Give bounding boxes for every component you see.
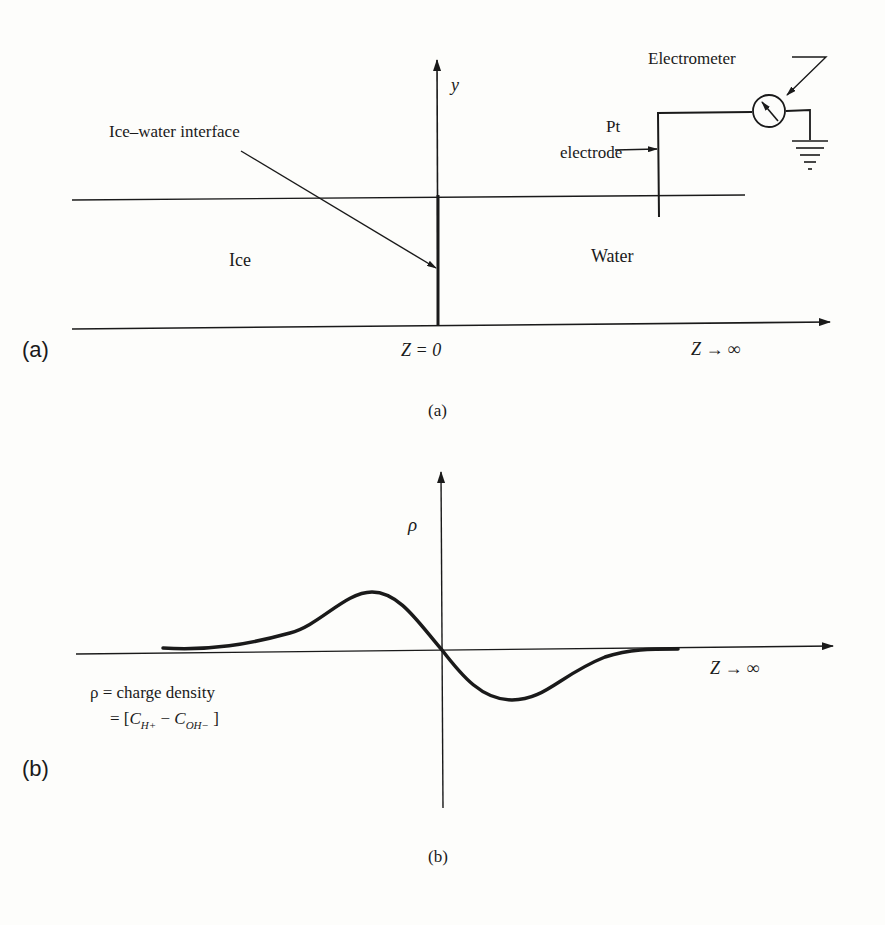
z-infinity-label-a: Z → ∞ — [691, 339, 741, 359]
origin-label: Z = 0 — [401, 340, 441, 360]
charge-density-curve — [163, 592, 678, 700]
water-label: Water — [591, 246, 634, 266]
charge-density-definition-line2: = [CH+ − COH− ] — [110, 709, 219, 731]
y-axis-label: y — [449, 75, 459, 95]
z-infinity-label-b: Z → ∞ — [710, 658, 760, 678]
rho-axis-label: ρ — [407, 514, 417, 535]
ground-wire — [786, 110, 810, 140]
panel-b-caption: (b) — [428, 847, 448, 866]
electrometer-label: Electrometer — [648, 49, 736, 68]
ground-icon — [792, 141, 828, 169]
ice-label: Ice — [229, 250, 251, 270]
panel-a-tag: (a) — [22, 337, 49, 362]
panel-b: ρ Z → ∞ ρ = charge density = [CH+ − COH−… — [22, 472, 833, 866]
charge-density-definition-line1: ρ = charge density — [90, 683, 215, 702]
electrode-label-line1: Pt — [606, 117, 620, 136]
interface-pointer-arrow — [241, 151, 436, 268]
interface-label: Ice–water interface — [109, 122, 240, 141]
electrode-pointer-arrow — [615, 149, 657, 150]
water-surface-line — [72, 195, 745, 200]
electrode-wire — [658, 112, 752, 217]
panel-a: y Ice–water interface Ice Water Pt elect… — [22, 49, 830, 420]
panel-a-caption: (a) — [428, 401, 447, 420]
electrometer-needle — [762, 102, 778, 121]
electrometer-pointer — [787, 57, 826, 95]
panel-b-tag: (b) — [22, 756, 49, 781]
figure: y Ice–water interface Ice Water Pt elect… — [0, 0, 885, 925]
electrode-label-line2: electrode — [560, 143, 622, 162]
z-axis — [72, 322, 830, 329]
rho-axis — [441, 472, 443, 808]
